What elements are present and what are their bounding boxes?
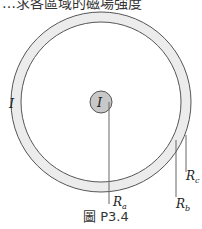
coaxial-cable-diagram: I I Ra Rb Rc xyxy=(0,0,202,229)
label-Rb: Rb xyxy=(175,197,190,213)
figure-caption: 圖 P3.4 xyxy=(83,206,129,225)
label-outer-current: I xyxy=(8,96,15,111)
label-inner-current: I xyxy=(96,95,103,110)
label-Rc: Rc xyxy=(185,169,200,185)
